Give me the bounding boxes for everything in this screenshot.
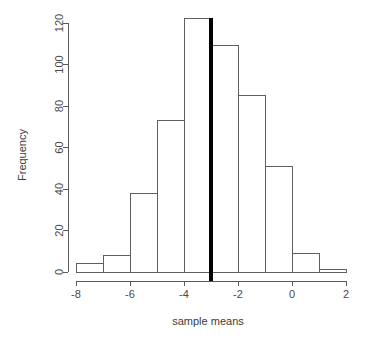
histogram-plot: 020406080100120 -8-6-4-202 sample means … xyxy=(0,0,369,345)
y-axis-tick-labels: 020406080100120 xyxy=(53,14,65,275)
histogram-bar xyxy=(319,270,346,272)
histogram-bar xyxy=(184,19,211,272)
x-tick-label: -6 xyxy=(125,288,135,300)
x-tick-label: 0 xyxy=(289,288,295,300)
histogram-bar xyxy=(76,264,103,272)
x-axis-title: sample means xyxy=(172,315,244,327)
x-tick-label: -8 xyxy=(71,288,81,300)
x-tick-label: -4 xyxy=(179,288,189,300)
y-axis-title: Frequency xyxy=(16,129,28,181)
x-tick-label: 2 xyxy=(343,288,349,300)
x-tick-label: -2 xyxy=(233,288,243,300)
histogram-bar xyxy=(292,253,319,272)
x-axis-tick-marks xyxy=(76,281,346,286)
histogram-bar xyxy=(265,166,292,272)
chart-canvas: 020406080100120 -8-6-4-202 sample means … xyxy=(0,0,369,345)
histogram-bar xyxy=(103,255,130,272)
x-axis-tick-labels: -8-6-4-202 xyxy=(71,288,349,300)
histogram-bar xyxy=(211,46,238,272)
histogram-bar xyxy=(238,96,265,272)
histogram-bar xyxy=(130,193,157,272)
histogram-bar xyxy=(157,121,184,272)
